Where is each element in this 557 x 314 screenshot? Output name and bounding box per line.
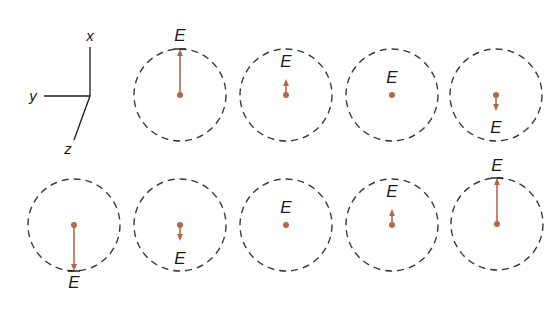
origin-point: [283, 92, 289, 98]
coordinate-axes: x y z: [28, 27, 94, 157]
origin-point: [71, 222, 77, 228]
e-field-label: E: [386, 68, 398, 87]
field-frame: E: [28, 179, 120, 292]
origin-point: [494, 221, 500, 227]
arrowhead-icon: [177, 49, 183, 56]
origin-point: [389, 222, 395, 228]
e-field-label: E: [491, 156, 503, 175]
origin-point: [493, 92, 499, 98]
field-frame: E: [134, 179, 226, 271]
arrowhead-icon: [177, 234, 183, 241]
z-axis-label: z: [63, 140, 72, 157]
field-frame: E: [240, 49, 332, 141]
field-frame: E: [346, 179, 438, 271]
x-axis-label: x: [85, 27, 94, 44]
e-field-label: E: [174, 249, 186, 268]
e-field-label: E: [386, 182, 398, 201]
origin-point: [177, 92, 183, 98]
arrowhead-icon: [71, 264, 77, 271]
z-axis-line: [74, 96, 90, 140]
arrowhead-icon: [494, 178, 500, 185]
field-frame: E: [450, 49, 542, 141]
arrowhead-icon: [389, 209, 395, 216]
e-field-label: E: [280, 198, 292, 217]
e-field-label: E: [490, 118, 502, 137]
origin-point: [283, 222, 289, 228]
field-frame: E: [240, 179, 332, 271]
e-field-label: E: [174, 26, 186, 45]
field-frame: E: [134, 26, 226, 141]
diagram-canvas: x y z EEEEEEEEE: [0, 0, 557, 314]
y-axis-label: y: [28, 87, 38, 104]
field-frame: E: [451, 156, 543, 270]
arrowhead-icon: [493, 104, 499, 111]
polarization-diagram: x y z EEEEEEEEE: [0, 0, 557, 314]
origin-point: [177, 222, 183, 228]
e-field-label: E: [280, 52, 292, 71]
e-field-label: E: [68, 273, 80, 292]
field-frame: E: [346, 49, 438, 141]
arrowhead-icon: [283, 79, 289, 86]
origin-point: [389, 92, 395, 98]
field-frames: EEEEEEEEE: [28, 26, 543, 292]
